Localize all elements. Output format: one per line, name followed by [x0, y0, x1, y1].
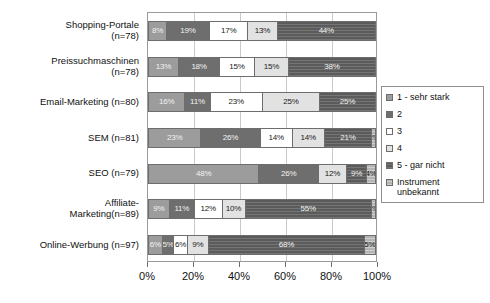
bar-segment-value-label: 14%	[268, 134, 283, 142]
bar-segment: 11%	[184, 92, 209, 112]
bar-segment-value-label: 25%	[340, 98, 355, 106]
bar-segment: 14%	[292, 128, 324, 148]
bar-row: 48%26%12%9%4%	[148, 164, 376, 184]
legend-label: 4	[397, 143, 402, 153]
bar-segment-value-label: 14%	[300, 134, 315, 142]
bar-segment: 26%	[200, 128, 259, 148]
bar-segment: 21%	[324, 128, 372, 148]
bar-segment: 55%	[245, 199, 372, 219]
bar-segment-value-label: 9%	[153, 205, 164, 213]
bar-segment-value-label: 9%	[192, 241, 203, 249]
legend-color-swatch	[386, 145, 393, 152]
y-axis-category-label: Affiliate- Marketing(n=89)	[0, 197, 139, 219]
bar-segment: 10%	[222, 199, 245, 219]
x-axis-tick-labels: 0%20%40%60%80%100%	[147, 270, 377, 288]
x-axis-tick-label: 100%	[363, 270, 391, 283]
bar-segment: 14%	[260, 128, 292, 148]
legend-label: 2	[397, 109, 402, 119]
bar-segment-value-label: 15%	[264, 63, 279, 71]
x-axis-tick-label: 0%	[139, 270, 155, 283]
bar-row: 9%11%12%10%55%2%	[148, 199, 376, 219]
y-axis-category-label: SEO (n=79)	[0, 167, 139, 178]
bar-segment: 18%	[178, 57, 219, 77]
stacked-bar-chart: Shopping-Portale (n=78)Preissuchmaschine…	[0, 0, 490, 303]
bar-segment-value-label: 15%	[229, 63, 244, 71]
bar-segment: 25%	[319, 92, 376, 112]
y-axis-category-label: SEM (n=81)	[0, 132, 139, 143]
bar-segment-value-label: 55%	[301, 205, 316, 213]
legend-item[interactable]: 4	[386, 143, 479, 153]
bar-segment-value-label: 5%	[162, 241, 173, 249]
bar-segment: 4%	[366, 164, 375, 184]
legend-label: 3	[397, 126, 402, 136]
bar-segment-value-label: 48%	[196, 170, 211, 178]
bar-segment: 2%	[371, 128, 376, 148]
bar-segment-value-label: 13%	[156, 63, 171, 71]
bar-segment-value-label: 19%	[180, 27, 195, 35]
bar-segment: 9%	[148, 199, 169, 219]
bar-segment: 9%	[346, 164, 367, 184]
bar-segment: 12%	[318, 164, 346, 184]
bar-segment: 16%	[148, 92, 184, 112]
bar-segment-value-label: 17%	[221, 27, 236, 35]
bar-segment-value-label: 13%	[255, 27, 270, 35]
bar-segment: 2%	[371, 199, 376, 219]
bar-segment-value-label: 9%	[351, 170, 362, 178]
x-axis-tick	[331, 262, 332, 267]
x-axis-tick-label: 60%	[274, 270, 296, 283]
x-axis-tick-label: 20%	[182, 270, 204, 283]
bar-segment-value-label: 68%	[279, 241, 294, 249]
y-axis-category-labels: Shopping-Portale (n=78)Preissuchmaschine…	[0, 12, 143, 262]
legend-color-swatch	[386, 179, 393, 186]
bar-segment-value-label: 12%	[325, 170, 340, 178]
bar-segment: 38%	[288, 57, 375, 77]
legend-label: 1 - sehr stark	[397, 92, 450, 102]
bar-segment-value-label: 4%	[366, 170, 375, 178]
bar-segment-value-label: 44%	[319, 27, 334, 35]
legend-color-swatch	[386, 94, 393, 101]
legend-item[interactable]: 1 - sehr stark	[386, 92, 479, 102]
bar-segment: 5%	[364, 235, 376, 255]
bar-segment-value-label: 8%	[152, 27, 163, 35]
bar-segment: 8%	[148, 21, 166, 41]
bar-segment-value-label: 25%	[283, 98, 298, 106]
bar-segment: 15%	[219, 57, 254, 77]
legend-item[interactable]: 2	[386, 109, 479, 119]
bar-segment-value-label: 5%	[364, 241, 375, 249]
bar-segment: 68%	[208, 235, 364, 255]
bar-segment-value-label: 12%	[201, 205, 216, 213]
bar-row: 6%5%6%9%68%5%	[148, 235, 376, 255]
bar-segment-value-label: 6%	[175, 241, 186, 249]
legend-item[interactable]: Instrument unbekannt	[386, 177, 479, 197]
legend-label: Instrument unbekannt	[397, 177, 440, 197]
legend-color-swatch	[386, 128, 393, 135]
bar-segment: 11%	[169, 199, 194, 219]
x-axis-tick	[147, 262, 148, 267]
y-axis-category-label: Shopping-Portale (n=78)	[0, 19, 139, 41]
bar-row: 23%26%14%14%21%2%	[148, 128, 376, 148]
bar-segment: 26%	[258, 164, 318, 184]
bar-segment: 13%	[148, 57, 178, 77]
bar-segment: 19%	[166, 21, 209, 41]
legend-label: 5 - gar nicht	[397, 160, 445, 170]
legend-color-swatch	[386, 111, 393, 118]
bar-segment-value-label: 23%	[229, 98, 244, 106]
bar-segment-value-label: 18%	[191, 63, 206, 71]
plot-area: 8%19%17%13%44%13%18%15%15%38%16%11%23%25…	[147, 12, 377, 262]
legend-item[interactable]: 5 - gar nicht	[386, 160, 479, 170]
bar-segment-value-label: 2%	[371, 134, 376, 142]
bar-row: 8%19%17%13%44%	[148, 21, 376, 41]
y-axis-category-label: Online-Werbung (n=97)	[0, 239, 139, 250]
bar-segment: 23%	[148, 128, 200, 148]
bar-segment-value-label: 23%	[167, 134, 182, 142]
bar-segment-value-label: 21%	[340, 134, 355, 142]
bar-segment-value-label: 2%	[371, 205, 376, 213]
bar-segment: 13%	[247, 21, 276, 41]
legend-item[interactable]: 3	[386, 126, 479, 136]
bar-segment: 6%	[173, 235, 187, 255]
bar-segment: 23%	[210, 92, 262, 112]
bar-segment-value-label: 6%	[150, 241, 161, 249]
bar-segment: 9%	[187, 235, 208, 255]
bar-segment: 5%	[162, 235, 174, 255]
bar-segment-value-label: 26%	[281, 170, 296, 178]
